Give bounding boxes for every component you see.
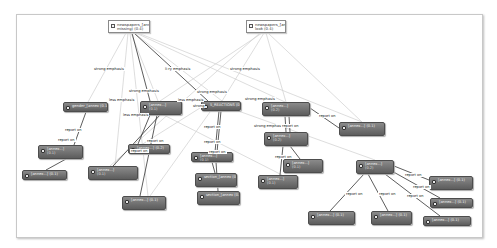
node-label: 5_REACTIONS (0.2) <box>210 103 241 107</box>
diagram-node[interactable]: gender_[annex (0.1) <box>63 102 108 112</box>
edge-label: less emphasis <box>122 113 149 117</box>
diagram-node[interactable]: [annex...](0.2) <box>262 102 310 116</box>
node-label: [annex...] (0.1) <box>131 198 158 202</box>
edge-label: strong emphasis <box>93 67 125 71</box>
concept-icon <box>432 180 436 184</box>
edge-label: strong emphasis <box>196 90 228 94</box>
diagram-node[interactable]: [annex...](0.2) <box>356 160 394 174</box>
edge-label: report on <box>130 149 149 153</box>
node-weight: (0.2) <box>273 138 305 142</box>
concept-icon <box>311 215 315 219</box>
edge-label: strong <box>192 104 205 108</box>
concept-icon <box>143 105 147 109</box>
node-weight: (0.2) <box>365 166 391 170</box>
node-label: [annex...] (0.1) <box>31 172 58 176</box>
concept-icon <box>194 156 198 160</box>
diagram-node[interactable]: [annex...](0.2) <box>264 132 308 146</box>
diagram-node[interactable]: [annex...] (0.1) <box>22 170 67 180</box>
edge-label: report on <box>404 173 423 177</box>
node-label: gender_[annex (0.1) <box>72 104 108 108</box>
node-label: [annex...] (0.1) <box>438 178 465 182</box>
edge-label: report on <box>208 150 227 154</box>
edge-label: report on <box>203 140 222 144</box>
concept-icon <box>198 177 202 181</box>
edge-label: report on <box>281 124 300 128</box>
diagram-node[interactable]: [annex...](0.1) <box>38 145 83 159</box>
concept-icon <box>91 170 95 174</box>
edge-label: report on <box>274 155 293 159</box>
concept-icon <box>286 163 290 167</box>
edge-label: report on <box>378 192 397 196</box>
edge-label: report on <box>203 125 222 129</box>
diagram-node[interactable]: [annex...] (0.1) <box>423 216 471 226</box>
edges-layer <box>0 0 497 248</box>
concept-icon <box>111 24 115 28</box>
concept-icon <box>426 220 430 224</box>
node-label: [annex...] (0.1) <box>439 200 466 204</box>
concept-icon <box>249 24 253 28</box>
diagram-node[interactable]: [annex...] (0.1) <box>122 196 166 210</box>
node-label: [annex...] (0.1) <box>432 218 459 222</box>
concept-icon <box>342 126 346 130</box>
edge-label: report on <box>318 114 337 118</box>
edge-label: less emphasis <box>177 98 204 102</box>
edge-label: report on <box>412 185 431 189</box>
node-weight: (0.1) <box>47 151 80 155</box>
concept-icon <box>261 179 265 183</box>
concept-icon <box>433 202 437 206</box>
edge-label: report on <box>406 194 425 198</box>
edge-label: strong emphasis <box>244 97 276 101</box>
root-node-weight: look (0.4) <box>255 27 283 31</box>
edge-label: strong emphasis <box>128 89 160 93</box>
diagram-node[interactable]: [annex...](0.1) <box>88 166 138 180</box>
node-weight: (0.2) <box>271 108 307 112</box>
node-weight: (0.1) <box>267 181 295 185</box>
diagram-node[interactable]: [annex...] (0.1) <box>339 122 385 136</box>
concept-icon <box>25 174 29 178</box>
concept-icon <box>41 149 45 153</box>
root-node-2[interactable]: newspapers_[annex... look (0.4) <box>246 20 286 33</box>
diagram-node[interactable]: [annex...](0.1) <box>258 175 298 189</box>
diagram-node[interactable]: [annex...] (0.1) <box>430 198 473 208</box>
node-label: section_[annex (0.1) <box>204 175 237 179</box>
node-label: [annex...] (0.1) <box>317 213 344 217</box>
concept-icon <box>125 200 129 204</box>
edge-label: li-ry emphasis <box>164 67 191 71</box>
concept-icon <box>200 195 204 199</box>
node-weight: (0.1) <box>292 165 320 169</box>
edge-label: report on <box>64 128 83 132</box>
edge-label: report on <box>57 138 76 142</box>
node-weight: (0.1) <box>97 172 135 176</box>
diagram-node[interactable]: section_[annex (0.1) <box>197 191 240 205</box>
concept-icon <box>66 106 70 110</box>
node-weight: (0.1) <box>149 107 179 111</box>
root-node-1[interactable]: newspapers_[annex... missing) (0.4) <box>108 20 150 33</box>
diagram-node[interactable]: 5_REACTIONS (0.2) <box>201 101 241 111</box>
diagram-node[interactable]: [annex...] (0.1) <box>429 176 473 190</box>
edge-label: report on <box>146 139 165 143</box>
diagram-node[interactable]: [annex...] (0.1) <box>371 211 412 225</box>
diagram-node[interactable]: section_[annex (0.1) <box>195 173 237 187</box>
edge-label: less emphasis <box>108 98 135 102</box>
node-label: section_[annex (0.1) <box>206 193 240 197</box>
diagram-node[interactable]: [annex...] (0.1) <box>308 211 355 225</box>
concept-icon <box>359 164 363 168</box>
root-node-weight: missing) (0.4) <box>117 27 147 31</box>
concept-icon <box>265 106 269 110</box>
concept-icon <box>374 215 378 219</box>
diagram-node[interactable]: [annex...](0.1) <box>283 159 323 173</box>
node-label: [annex...] (0.1) <box>380 213 407 217</box>
edge-label: report on <box>345 192 364 196</box>
edge-label: strong emphasis <box>229 67 261 71</box>
node-weight: (0.1) <box>200 158 230 162</box>
concept-icon <box>267 136 271 140</box>
node-label: [annex...] (0.1) <box>348 124 375 128</box>
